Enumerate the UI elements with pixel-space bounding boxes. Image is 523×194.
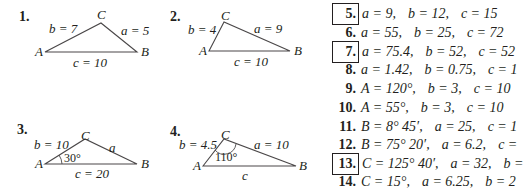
vertex-a-label: A	[35, 156, 43, 172]
problem-number: 6.	[334, 24, 356, 42]
figure-3-number: 3.	[17, 122, 28, 138]
problem-number: 5.	[334, 5, 357, 23]
figure-2-number: 2.	[170, 9, 181, 25]
angle-label: 110°	[215, 150, 237, 165]
problem-row: 14.C = 15°,a = 6.25,b = 2	[334, 173, 516, 191]
angle-label: 30°	[64, 151, 81, 166]
side-a-label: a = 5	[121, 23, 149, 39]
vertex-a-label: A	[193, 158, 201, 174]
problem-number: 11.	[334, 118, 356, 136]
vertex-b-label: B	[141, 44, 149, 60]
problem-row: 12.B = 75° 20′,a = 6.2,c =	[334, 136, 517, 154]
vertex-b-label: B	[294, 43, 302, 59]
problem-row: 7.a = 75.4,b = 52,c = 52	[334, 43, 515, 61]
problem-row: 8.a = 1.42,b = 0.75,c = 1	[334, 61, 518, 79]
problem-row: 13.C = 125° 40′,a = 32,b =	[334, 155, 523, 173]
vertex-c-label: C	[81, 128, 90, 144]
problem-number: 8.	[334, 61, 356, 79]
problem-row: 9.A = 120°,b = 3,c = 10	[334, 80, 510, 98]
vertex-c-label: C	[97, 7, 106, 23]
side-a-label: a = 9	[254, 21, 282, 37]
side-b-label: b = 4.5	[179, 137, 217, 153]
problem-number: 10.	[334, 99, 356, 117]
vertex-b-label: B	[141, 156, 149, 172]
side-b-label: b = 7	[49, 21, 77, 37]
side-c-label: c	[242, 168, 248, 184]
side-c-label: c = 10	[73, 55, 107, 71]
vertex-a-label: A	[199, 43, 207, 59]
side-a-label: a = 10	[254, 137, 289, 153]
problem-row: 5.a = 9,b = 12,c = 15	[334, 5, 498, 23]
problem-row: 11.B = 8° 45′,a = 25,c = 1	[334, 118, 517, 136]
problem-number: 9.	[334, 80, 356, 98]
problem-row: 6.a = 55,b = 25,c = 72	[334, 24, 504, 42]
problem-number: 12.	[334, 136, 356, 154]
side-c-label: c = 20	[75, 166, 109, 182]
vertex-c-label: C	[221, 8, 230, 24]
problem-number: 14.	[334, 173, 356, 191]
side-b-label: b = 4	[188, 22, 216, 38]
vertex-c-label: C	[221, 127, 230, 143]
side-c-label: c = 10	[234, 54, 268, 70]
problem-number: 7.	[334, 43, 357, 61]
side-a-label: a	[109, 140, 116, 156]
angle-arc-3	[59, 155, 62, 164]
figure-1-number: 1.	[19, 9, 30, 25]
problem-row: 10.A = 55°,b = 3,c = 10	[334, 99, 503, 117]
vertex-b-label: B	[299, 158, 307, 174]
problem-number: 13.	[334, 155, 357, 173]
vertex-a-label: A	[35, 44, 43, 60]
